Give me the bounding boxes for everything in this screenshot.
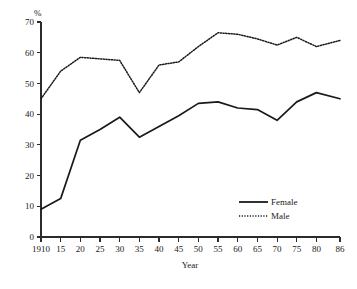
chart-legend: Female Male — [239, 197, 298, 221]
x-tick-label: 25 — [96, 244, 106, 254]
x-tick-label: 70 — [273, 244, 283, 254]
y-tick-label: 0 — [30, 232, 35, 242]
x-tick-label: 50 — [194, 244, 204, 254]
y-tick-label: 30 — [25, 140, 35, 150]
x-tick-label: 65 — [253, 244, 263, 254]
x-axis-title: Year — [182, 260, 199, 270]
series-line-female — [41, 93, 340, 210]
x-tick-label: 1910 — [32, 244, 51, 254]
y-tick-label: 40 — [25, 109, 35, 119]
legend-label-female: Female — [271, 197, 298, 207]
x-tick-label: 45 — [174, 244, 184, 254]
y-axis-unit-label: % — [34, 8, 42, 18]
y-tick-label: 50 — [25, 79, 35, 89]
y-tick-label: 60 — [25, 48, 35, 58]
x-tick-label: 30 — [115, 244, 125, 254]
x-tick-label: 20 — [76, 244, 86, 254]
y-tick-label: 20 — [25, 171, 35, 181]
series-line-male — [41, 33, 340, 99]
line-chart: % 010203040506070 1910152025303540455055… — [0, 0, 357, 289]
x-tick-label: 86 — [336, 244, 346, 254]
chart-container: % 010203040506070 1910152025303540455055… — [0, 0, 357, 289]
y-axis-ticks: 010203040506070 — [25, 17, 41, 242]
x-tick-label: 15 — [56, 244, 66, 254]
y-tick-label: 10 — [25, 201, 35, 211]
x-tick-label: 40 — [155, 244, 165, 254]
x-tick-label: 60 — [233, 244, 243, 254]
x-tick-label: 55 — [214, 244, 224, 254]
x-axis-ticks: 1910152025303540455055606570758086 — [32, 237, 345, 254]
y-tick-label: 70 — [25, 17, 35, 27]
x-tick-label: 75 — [292, 244, 302, 254]
x-tick-label: 80 — [312, 244, 322, 254]
legend-label-male: Male — [271, 211, 290, 221]
x-tick-label: 35 — [135, 244, 145, 254]
